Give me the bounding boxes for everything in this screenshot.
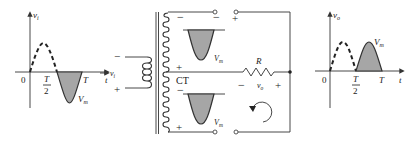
load-resistor-branch: R − vo +	[238, 12, 292, 132]
junction-dot	[288, 70, 292, 74]
rectifier-diagram: vi t 0 T 2 T Vm − + vi	[0, 0, 420, 141]
input-peak-label: Vm	[78, 94, 89, 105]
upper-minus-right: −	[213, 10, 220, 24]
output-origin-label: 0	[322, 75, 327, 85]
output-peak-label: Vm	[374, 37, 385, 48]
terminal-bottom-left	[213, 130, 217, 134]
primary-vi-label: vi	[110, 69, 116, 79]
upper-plus-top: +	[232, 12, 238, 24]
terminal-bottom-right	[234, 130, 238, 134]
input-y-label: vi	[33, 10, 39, 21]
input-half-period-den: 2	[44, 86, 49, 96]
output-plus-sign: +	[275, 79, 281, 91]
input-period-label: T	[83, 75, 89, 85]
upper-secondary-waveform	[188, 30, 214, 60]
resistor-label: R	[255, 56, 262, 66]
lower-minus-sign: −	[177, 83, 184, 97]
input-half-period-num: T	[44, 74, 50, 84]
secondary-lower-coil	[163, 72, 169, 132]
upper-peak-label: Vm	[214, 54, 223, 64]
input-x-label: t	[105, 75, 108, 85]
current-direction-arrow-icon	[252, 102, 272, 122]
secondary-upper-coil	[163, 13, 169, 72]
input-positive-half-dashed	[30, 43, 57, 72]
output-half-period-den: 2	[353, 86, 358, 96]
upper-minus-left: −	[177, 10, 184, 24]
center-tapped-transformer: − + vi − − + + Vm CT −	[100, 10, 290, 134]
output-first-half-dashed	[330, 42, 356, 71]
lower-plus-sign: +	[176, 121, 182, 133]
primary-coil	[143, 57, 152, 88]
output-y-label: vo	[333, 10, 340, 21]
output-half-period-num: T	[353, 74, 359, 84]
lower-peak-label: Vm	[214, 118, 223, 128]
output-minus-sign: −	[238, 78, 245, 92]
output-x-label: t	[399, 75, 402, 85]
output-waveform-graph: vo t 0 T 2 T Vm	[315, 10, 402, 108]
primary-plus-sign: +	[114, 83, 120, 95]
primary-minus-sign: −	[114, 50, 120, 62]
upper-plus-sign: +	[176, 61, 182, 73]
input-origin-label: 0	[21, 75, 26, 85]
output-vo-label: vo	[257, 81, 264, 91]
input-waveform-graph: vi t 0 T 2 T Vm	[15, 10, 108, 108]
resistor-zigzag	[243, 68, 290, 76]
current-arrowhead-icon	[249, 106, 256, 112]
output-period-label: T	[379, 75, 385, 85]
lower-secondary-waveform	[188, 94, 214, 124]
